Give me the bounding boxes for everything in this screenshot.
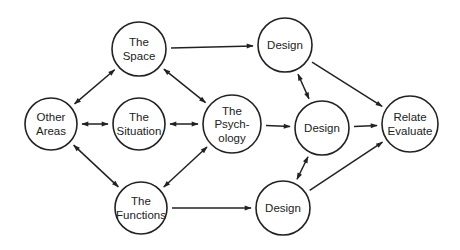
- node-label: Design: [304, 122, 340, 134]
- edge-psychology-to-design_mid: [266, 126, 290, 127]
- arrow-icon: [171, 46, 253, 48]
- node-label: Design: [267, 39, 303, 51]
- double-arrow-icon: [297, 157, 308, 179]
- node-label: Design: [265, 202, 301, 214]
- nodes-layer: TheSpaceDesignOtherAreasTheSituationTheP…: [25, 18, 438, 235]
- node-label: Situation: [117, 125, 162, 137]
- node-label: The: [131, 195, 151, 207]
- edge-space-to-other: [75, 70, 115, 104]
- double-arrow-icon: [74, 145, 119, 187]
- node-design_mid: Design: [295, 101, 349, 155]
- node-label: The: [222, 105, 242, 117]
- node-label: The: [129, 36, 149, 48]
- edge-design_top-to-design_mid: [298, 74, 309, 99]
- node-label: Relate: [393, 111, 426, 123]
- node-situation: TheSituation: [113, 98, 165, 150]
- node-label: Psych-: [214, 118, 249, 130]
- node-label: Evaluate: [388, 125, 433, 137]
- node-design_bottom: Design: [256, 181, 310, 235]
- edge-psychology-to-functions: [164, 147, 207, 187]
- edge-design_mid-to-relate: [354, 125, 377, 126]
- edge-space-to-design_top: [171, 46, 253, 48]
- node-label: Functions: [116, 209, 166, 221]
- edge-design_bottom-to-design_mid: [297, 157, 308, 179]
- node-functions: TheFunctions: [115, 182, 167, 234]
- node-label: Areas: [36, 125, 66, 137]
- edge-space-to-psychology: [164, 69, 206, 103]
- node-relate: RelateEvaluate: [382, 96, 438, 152]
- arrow-icon: [266, 126, 290, 127]
- double-arrow-icon: [164, 147, 207, 187]
- node-psychology: ThePsych-ology: [203, 95, 261, 153]
- design-process-diagram: TheSpaceDesignOtherAreasTheSituationTheP…: [0, 0, 460, 250]
- edge-design_top-to-relate: [312, 62, 382, 106]
- node-label: Space: [123, 50, 156, 62]
- node-label: ology: [218, 132, 246, 144]
- node-label: Other: [37, 111, 66, 123]
- double-arrow-icon: [298, 74, 309, 99]
- double-arrow-icon: [75, 70, 115, 104]
- arrow-icon: [312, 62, 382, 106]
- double-arrow-icon: [164, 69, 206, 103]
- node-other: OtherAreas: [25, 98, 77, 150]
- node-label: The: [129, 111, 149, 123]
- edge-other-to-functions: [74, 145, 119, 187]
- node-space: TheSpace: [112, 22, 166, 76]
- node-design_top: Design: [258, 18, 312, 72]
- arrow-icon: [354, 125, 377, 126]
